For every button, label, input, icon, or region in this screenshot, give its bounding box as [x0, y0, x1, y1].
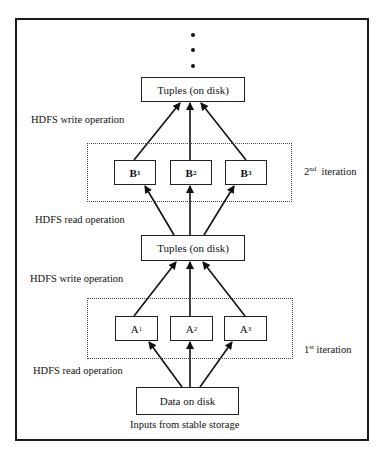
task-b1: B1 [114, 160, 156, 185]
hdfs-write-label-mid: HDFS write operation [30, 273, 123, 284]
ellipsis-dot [191, 64, 195, 68]
hdfs-write-label-top: HDFS write operation [31, 114, 124, 125]
task-a3: A3 [224, 316, 267, 341]
iteration-1-label: 1st iteration [304, 343, 352, 355]
data-on-disk-box: Data on disk [136, 387, 239, 415]
task-b2: B2 [170, 160, 212, 185]
task-a1: A1 [115, 316, 158, 341]
hdfs-read-label-bottom: HDFS read operation [33, 365, 123, 376]
top-tuples-box: Tuples (on disk) [141, 77, 245, 102]
mid-tuples-box: Tuples (on disk) [141, 235, 245, 261]
iteration-2-label: 2nd iteration [304, 165, 357, 177]
top-tuples-label: Tuples (on disk) [157, 84, 229, 96]
data-on-disk-label: Data on disk [160, 395, 216, 407]
ellipsis-dot [191, 33, 195, 37]
task-a2: A2 [170, 316, 213, 341]
task-b3: B3 [225, 160, 267, 185]
hdfs-read-label-mid: HDFS read operation [35, 214, 125, 225]
input-caption: Inputs from stable storage [130, 419, 239, 430]
mid-tuples-label: Tuples (on disk) [157, 242, 229, 254]
ellipsis-dot [191, 48, 195, 52]
